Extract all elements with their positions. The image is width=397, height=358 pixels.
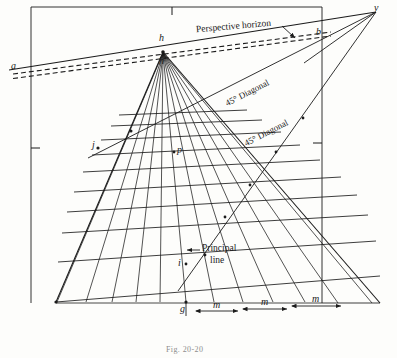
point-label-a: a: [11, 61, 16, 71]
point-label-h-prime: h': [159, 56, 166, 66]
point-label-g: g: [180, 304, 185, 314]
measure-label-m2: m: [261, 297, 268, 307]
point-label-b: b: [316, 27, 321, 37]
point-label-i: i: [178, 258, 181, 268]
point-label-v: v: [374, 3, 378, 13]
perspective-horizon-dashed: [13, 32, 331, 79]
measure-label-m1: m: [213, 300, 220, 310]
figure-canvas: a b v h h' j p i g Perspective horizon 4…: [0, 0, 397, 358]
figure-caption: Fig. 20-20: [166, 346, 203, 354]
horizon-solid-line: [9, 12, 376, 70]
point-label-h: h: [159, 33, 164, 43]
transversal-grid-lines: [56, 110, 380, 302]
measure-label-m3: m: [312, 294, 319, 304]
perspective-diagram-svg: [0, 0, 397, 358]
principal-line-label-1: Principal: [202, 244, 236, 254]
point-label-j: j: [92, 140, 95, 150]
principal-line-label-2: line: [210, 256, 224, 266]
point-label-p: p: [177, 145, 182, 155]
horizon-label-arrow: [282, 26, 295, 38]
